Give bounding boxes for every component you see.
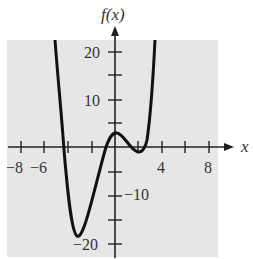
function-graph: f(x) x −8 −6 4 8 20 10 −10 −20 [0,0,253,259]
tick-label-4: 4 [157,159,165,176]
y-axis-arrow-icon [111,26,119,36]
plot-background [7,40,218,257]
x-axis-label: x [240,137,249,156]
tick-label-20: 20 [84,44,100,61]
x-axis-arrow-icon [224,143,234,151]
tick-label-neg10: −10 [124,186,149,203]
y-axis-label: f(x) [101,5,125,24]
tick-label-10: 10 [84,92,100,109]
tick-label-8: 8 [204,159,212,176]
tick-label-neg6: −6 [30,159,47,176]
tick-label-neg8: −8 [6,159,23,176]
tick-label-neg20: −20 [73,236,98,253]
